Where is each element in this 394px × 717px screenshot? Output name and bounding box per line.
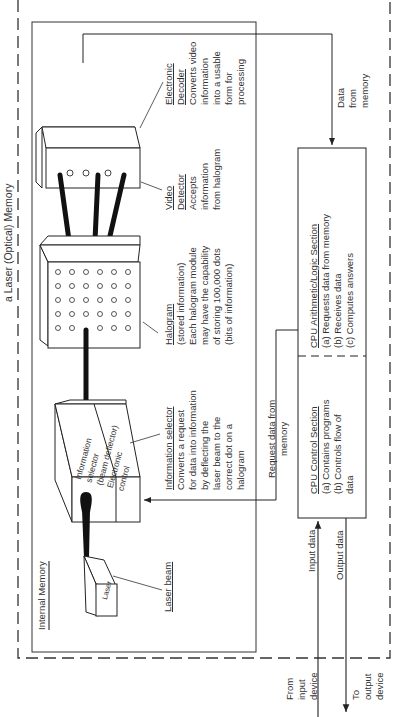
selector-caption-line: laser beam to the (211, 390, 223, 490)
video-detector-title: Video (163, 149, 175, 210)
data-from-memory-label: Data from memory (335, 74, 371, 108)
video-detector-title: Detector (175, 149, 187, 210)
selector-caption-line: for data into information (187, 390, 199, 490)
pointer-decoder (140, 82, 163, 128)
cpu-control-section: CPU Control Section (a) Contains program… (308, 399, 356, 494)
selector-caption: Information selector Converts a request … (163, 390, 247, 490)
flow-line: input (296, 673, 308, 700)
diagram-title: a Laser (Optical) Memory (2, 184, 14, 302)
cpu-control-title: CPU Control Section (308, 399, 320, 494)
selector-caption-title: Information selector (163, 390, 175, 490)
video-detector-line: Accepts (187, 149, 199, 210)
video-detector-line: information (199, 149, 211, 210)
flow-line: memory (359, 74, 371, 108)
cpu-control-item: (b) Controls flow of (332, 399, 344, 494)
halogram-block (40, 236, 140, 348)
cpu-control-item: data (344, 399, 356, 494)
laser-beam-caption: Laser beam (162, 562, 174, 612)
laser-beam-title: Laser beam (162, 562, 173, 612)
request-data-label: Request data from memory (266, 400, 290, 478)
halogram-caption: Halogram (stored information) Each halog… (163, 246, 235, 345)
cpu-alu-item: (c) Computes answers (344, 214, 356, 348)
pointer-detector (141, 182, 162, 190)
flow-line: from (347, 74, 359, 108)
flow-line: device (374, 673, 386, 700)
flow-line: memory (278, 400, 290, 478)
flow-line: device (308, 673, 320, 700)
selector-caption-line: Converts a request (175, 390, 187, 490)
cpu-alu-item: (b) Receives data (332, 214, 344, 348)
internal-memory-label: Internal Memory (36, 561, 50, 630)
decoder-caption: Electronic Decoder Converts video inform… (163, 42, 247, 105)
cpu-control-item: (a) Contains programs (320, 399, 332, 494)
input-data-label: Input data (306, 530, 318, 572)
pointer-laser (113, 576, 162, 590)
halogram-caption-title: Halogram (163, 246, 175, 345)
output-data-label: Output data (334, 530, 346, 580)
decoder-title: Electronic (163, 42, 175, 105)
to-output-device-label: To output device (350, 673, 386, 700)
decoder-line: Converts video (187, 42, 199, 105)
cpu-alu-section: CPU Arithmetic/Logic Section (a) Request… (308, 214, 356, 348)
video-detector-caption: Video Detector Accepts information from … (163, 149, 223, 210)
from-input-device-label: From input device (284, 673, 320, 700)
halogram-caption-line: (stored information) (175, 246, 187, 345)
decoder-line: form for (223, 42, 235, 105)
decoder-line: information (199, 42, 211, 105)
selector-caption-line: halogram (235, 390, 247, 490)
selector-caption-line: correct dot on a (223, 390, 235, 490)
halogram-caption-line: (bits of information) (223, 246, 235, 345)
halogram-caption-line: of storing 100,000 dots (211, 246, 223, 345)
decoder-line: processing (235, 42, 247, 105)
decoder-title: Decoder (175, 42, 187, 105)
decoder-line: into a usable (211, 42, 223, 105)
flow-line: From (284, 673, 296, 700)
selector-caption-line: by deflecting the (199, 390, 211, 490)
video-detector-line: from halogram (211, 149, 223, 210)
flow-line: output (362, 673, 374, 700)
halogram-caption-line: may have the capability (199, 246, 211, 345)
flow-line: To (350, 673, 362, 700)
pointer-halogram (143, 322, 158, 333)
flow-line: Request data from (266, 400, 278, 478)
halogram-caption-line: Each halogram module (187, 246, 199, 345)
laser-beam-cone (82, 510, 90, 558)
cpu-alu-title: CPU Arithmetic/Logic Section (308, 214, 320, 348)
cpu-alu-item: (a) Requests data from memory (320, 214, 332, 348)
flow-line: Data (335, 74, 347, 108)
